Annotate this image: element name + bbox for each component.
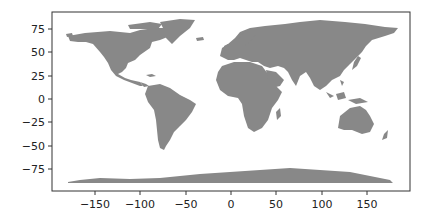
svg-text:−25: −25 — [22, 116, 45, 129]
svg-text:−50: −50 — [22, 140, 45, 153]
x-ticks — [95, 191, 367, 195]
x-tick-labels: −150 −100 −50 0 50 100 150 — [80, 198, 378, 211]
svg-text:100: 100 — [312, 198, 333, 211]
svg-text:150: 150 — [357, 198, 378, 211]
svg-text:50: 50 — [31, 46, 45, 59]
svg-text:−100: −100 — [125, 198, 155, 211]
svg-text:50: 50 — [269, 198, 283, 211]
svg-text:25: 25 — [31, 70, 45, 83]
svg-text:−75: −75 — [22, 163, 45, 176]
svg-text:0: 0 — [38, 93, 45, 106]
svg-text:−150: −150 — [80, 198, 110, 211]
svg-text:75: 75 — [31, 23, 45, 36]
map-figure: −150 −100 −50 0 50 100 150 75 50 25 0 −2… — [0, 0, 431, 222]
y-tick-labels: 75 50 25 0 −25 −50 −75 — [22, 23, 45, 176]
svg-text:−50: −50 — [174, 198, 197, 211]
y-ticks — [48, 29, 52, 169]
svg-text:0: 0 — [228, 198, 235, 211]
